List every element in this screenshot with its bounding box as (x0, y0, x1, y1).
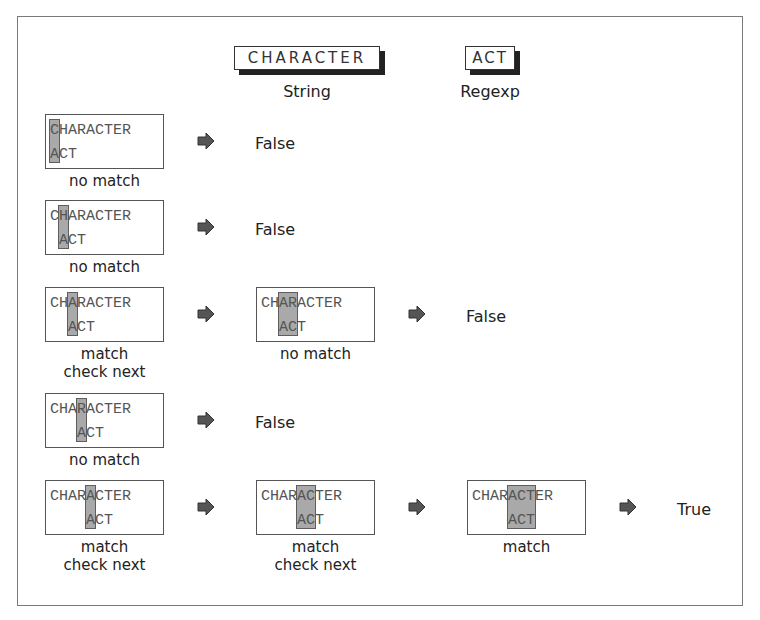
pattern-text: ACT (50, 147, 77, 162)
regexp-label: Regexp (440, 82, 540, 101)
pattern-text: ACT (508, 513, 535, 528)
step-caption: match (457, 538, 596, 556)
string-text: CHARACTER (50, 296, 131, 311)
step-caption: match check next (35, 538, 174, 574)
pattern-text: ACT (68, 320, 95, 335)
arrow-right-icon (408, 305, 426, 323)
step-caption: match check next (246, 538, 385, 574)
string-text: CHARACTER (50, 489, 131, 504)
string-text: CHARACTER (261, 489, 342, 504)
string-text: CHARACTER (50, 209, 131, 224)
pattern-text: ACT (279, 320, 306, 335)
result-text: False (255, 220, 295, 239)
step-caption: no match (246, 345, 385, 363)
regexp-box: ACT (465, 46, 515, 70)
result-text: False (466, 307, 506, 326)
arrow-right-icon (197, 218, 215, 236)
result-text: False (255, 413, 295, 432)
arrow-right-icon (619, 498, 637, 516)
string-label: String (257, 82, 357, 101)
arrow-right-icon (197, 305, 215, 323)
string-box: CHARACTER (234, 46, 380, 70)
step-caption: no match (35, 451, 174, 469)
string-text: CHARACTER (50, 123, 131, 138)
arrow-right-icon (197, 132, 215, 150)
arrow-right-icon (408, 498, 426, 516)
pattern-text: ACT (77, 426, 104, 441)
step-caption: match check next (35, 345, 174, 381)
string-text: CHARACTER (50, 402, 131, 417)
regexp-box-text: ACT (472, 49, 508, 67)
string-box-text: CHARACTER (248, 49, 366, 67)
result-text: False (255, 134, 295, 153)
result-text: True (677, 500, 711, 519)
step-caption: no match (35, 258, 174, 276)
pattern-text: ACT (59, 233, 86, 248)
step-caption: no match (35, 172, 174, 190)
string-text: CHARACTER (472, 489, 553, 504)
string-text: CHARACTER (261, 296, 342, 311)
pattern-text: ACT (297, 513, 324, 528)
pattern-text: ACT (86, 513, 113, 528)
arrow-right-icon (197, 411, 215, 429)
arrow-right-icon (197, 498, 215, 516)
